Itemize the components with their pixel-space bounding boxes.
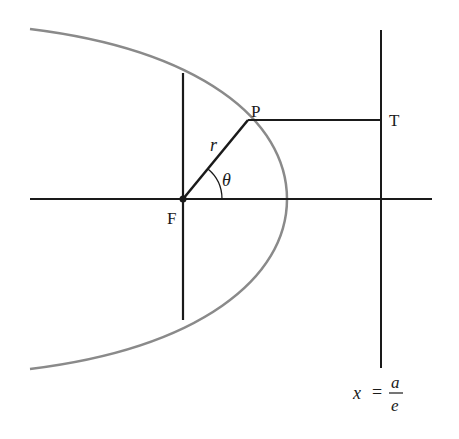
label-point-t: T [389,111,400,130]
label-focus: F [167,209,176,228]
directrix-equation: x = a e [352,373,403,415]
focus-point [180,196,187,203]
conic-diagram: F P T r θ x = a e [0,0,459,439]
eq-equals: = [372,382,382,402]
label-angle: θ [222,170,231,190]
eq-x: x [352,383,361,403]
angle-arc [208,169,222,199]
eq-numerator: a [391,373,400,392]
label-radius: r [210,135,218,155]
label-point-p: P [251,102,260,121]
focal-radius [183,120,248,199]
eq-denominator: e [391,396,399,415]
